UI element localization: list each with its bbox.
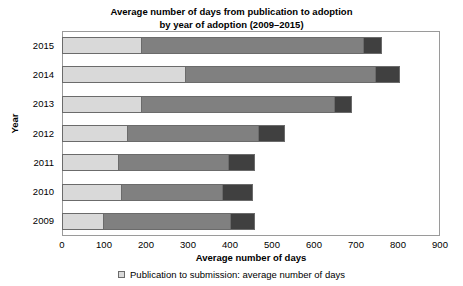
x-tick-label-300: 300 (180, 239, 196, 250)
x-tick-label-600: 600 (306, 239, 322, 250)
bar-row (62, 31, 440, 236)
y-tick-label-2015: 2015 (33, 40, 54, 51)
y-axis-title: Year (9, 94, 20, 154)
x-tick-label-400: 400 (222, 239, 238, 250)
bar-segment-2009-1[interactable] (62, 213, 103, 230)
chart-title-line-2: by year of adoption (2009–2015) (0, 19, 463, 32)
y-tick-label-2009: 2009 (33, 215, 54, 226)
x-tick-label-700: 700 (348, 239, 364, 250)
bar-segment-2009-3[interactable] (230, 213, 255, 230)
y-tick-label-2012: 2012 (33, 128, 54, 139)
x-tick-label-500: 500 (264, 239, 280, 250)
legend-label: Publication to submission: average numbe… (130, 269, 345, 280)
bars-layer (62, 31, 440, 236)
x-axis-title: Average number of days (62, 252, 440, 263)
legend-item-1[interactable]: Publication to submission: average numbe… (118, 269, 345, 280)
x-tick-label-900: 900 (432, 239, 448, 250)
y-tick-label-2011: 2011 (34, 157, 54, 168)
x-tick-label-800: 800 (390, 239, 406, 250)
x-axis-tick-labels: 0100200300400500600700800900 (62, 239, 440, 253)
x-tick-label-0: 0 (59, 239, 64, 250)
chart-legend: Publication to submission: average numbe… (0, 269, 463, 280)
chart-title-line-1: Average number of days from publication … (0, 6, 463, 19)
x-tick-label-200: 200 (138, 239, 154, 250)
chart-title: Average number of days from publication … (0, 6, 463, 31)
legend-swatch-icon (118, 271, 125, 278)
y-tick-label-2014: 2014 (33, 69, 54, 80)
y-tick-label-2013: 2013 (33, 98, 54, 109)
bar-segment-2009-2[interactable] (103, 213, 230, 230)
x-tick-label-100: 100 (96, 239, 112, 250)
stacked-bar-2009[interactable] (62, 213, 255, 230)
y-tick-label-2010: 2010 (33, 186, 54, 197)
